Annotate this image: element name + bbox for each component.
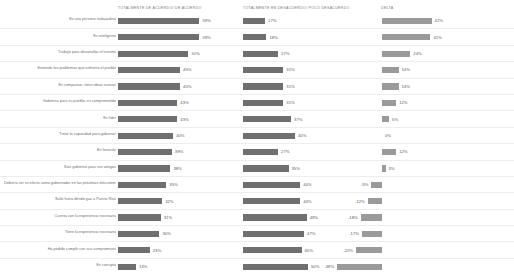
delta-value: 12% bbox=[399, 149, 407, 154]
delta-bar bbox=[382, 67, 399, 73]
delta-bar bbox=[382, 149, 396, 155]
delta-bar bbox=[356, 247, 382, 253]
delta-value: -12% bbox=[354, 199, 365, 204]
disagree-value: 40% bbox=[298, 133, 306, 138]
chart-row: Gobierna para su pueblo, es comprometido… bbox=[0, 95, 514, 111]
delta-value: 24% bbox=[413, 51, 421, 56]
disagree-value: 45% bbox=[305, 248, 313, 253]
agree-cell: 43% bbox=[118, 99, 238, 107]
agree-value: 39% bbox=[175, 149, 183, 154]
agree-value: 43% bbox=[180, 117, 188, 122]
delta-value: 6% bbox=[392, 117, 398, 122]
agree-cell: 35% bbox=[118, 181, 238, 189]
agree-cell: 40% bbox=[118, 132, 238, 140]
disagree-bar bbox=[243, 133, 295, 139]
row-label: Tiene la experiencia necesaria bbox=[4, 230, 116, 235]
delta-bar bbox=[382, 165, 386, 171]
chart-row: Sois gobierno para sus amigos38%35%3% bbox=[0, 161, 514, 177]
delta-value: 14% bbox=[402, 67, 410, 72]
agree-value: 43% bbox=[180, 100, 188, 105]
agree-bar bbox=[118, 149, 172, 155]
disagree-value: 44% bbox=[303, 182, 311, 187]
chart-row: Debería ser re-electo como gobernador en… bbox=[0, 177, 514, 193]
agree-bar bbox=[118, 18, 199, 24]
row-label: Ha podido cumplir con sus compromisos bbox=[4, 247, 116, 252]
disagree-bar bbox=[243, 182, 300, 188]
disagree-bar bbox=[243, 247, 302, 253]
row-label: Entiende los problemas que enfrenta el p… bbox=[4, 66, 116, 71]
agree-cell: 30% bbox=[118, 230, 238, 238]
row-label: Es inteligente bbox=[4, 34, 116, 39]
delta-cell: 3% bbox=[330, 165, 512, 173]
disagree-value: 17% bbox=[268, 18, 276, 23]
delta-bar bbox=[362, 231, 382, 237]
row-label: Cuenta con la experiencia necesaria bbox=[4, 214, 116, 219]
disagree-bar bbox=[243, 116, 291, 122]
disagree-bar bbox=[243, 34, 266, 40]
delta-bar bbox=[361, 214, 382, 220]
delta-value: 42% bbox=[435, 18, 443, 23]
delta-cell: 42% bbox=[330, 17, 512, 25]
disagree-value: 35% bbox=[292, 166, 300, 171]
disagree-bar bbox=[243, 67, 283, 73]
agree-bar bbox=[118, 133, 173, 139]
disagree-value: 27% bbox=[281, 51, 289, 56]
agree-bar bbox=[118, 100, 177, 106]
chart-row: Tiene la capacidad para gobernar40%40%0% bbox=[0, 128, 514, 144]
agree-bar bbox=[118, 34, 199, 40]
row-label: Trabajó para desarrollar el turismo bbox=[4, 50, 116, 55]
disagree-value: 47% bbox=[307, 231, 315, 236]
agree-cell: 45% bbox=[118, 66, 238, 74]
delta-value: -18% bbox=[347, 215, 358, 220]
delta-bar bbox=[382, 18, 432, 24]
delta-value: 41% bbox=[433, 35, 441, 40]
agree-bar bbox=[118, 264, 136, 270]
agree-cell: 59% bbox=[118, 34, 238, 42]
disagree-value: 49% bbox=[310, 215, 318, 220]
delta-value: -17% bbox=[348, 231, 359, 236]
delta-bar bbox=[382, 100, 396, 106]
chart-row: Es una persona trabajadora59%17%42% bbox=[0, 13, 514, 29]
agree-cell: 51% bbox=[118, 50, 238, 58]
delta-cell: 0% bbox=[330, 132, 512, 140]
row-label: Es una persona trabajadora bbox=[4, 17, 116, 22]
delta-cell: -9% bbox=[330, 181, 512, 189]
disagree-value: 31% bbox=[286, 67, 294, 72]
disagree-value: 31% bbox=[286, 100, 294, 105]
row-label: Es honesto bbox=[4, 148, 116, 153]
delta-value: 0% bbox=[385, 133, 391, 138]
disagree-bar bbox=[243, 83, 283, 89]
disagree-bar bbox=[243, 214, 307, 220]
chart-row: Trabajó para desarrollar el turismo51%27… bbox=[0, 46, 514, 62]
agree-cell: 31% bbox=[118, 214, 238, 222]
agree-cell: 59% bbox=[118, 17, 238, 25]
delta-value: -38% bbox=[323, 264, 334, 269]
delta-cell: -17% bbox=[330, 230, 512, 238]
agree-cell: 39% bbox=[118, 148, 238, 156]
disagree-value: 27% bbox=[281, 149, 289, 154]
column-header-delta: DELTA bbox=[381, 6, 393, 10]
agree-value: 59% bbox=[202, 35, 210, 40]
disagree-bar bbox=[243, 198, 300, 204]
chart-row: Es inteligente59%18%41% bbox=[0, 29, 514, 45]
agree-cell: 43% bbox=[118, 116, 238, 124]
delta-bar bbox=[337, 264, 382, 270]
row-label: Sois gobierno para sus amigos bbox=[4, 165, 116, 170]
column-header-disagree: TOTALMENTE EN DESACUERDO/ POCO DESACUERD… bbox=[243, 6, 350, 10]
agree-value: 45% bbox=[183, 67, 191, 72]
agree-bar bbox=[118, 231, 159, 237]
agree-bar bbox=[118, 182, 166, 188]
agree-value: 23% bbox=[153, 248, 161, 253]
agree-bar bbox=[118, 198, 162, 204]
row-label: Es compasivo, tiene ideas nuevas bbox=[4, 83, 116, 88]
agree-value: 32% bbox=[165, 199, 173, 204]
agree-bar bbox=[118, 247, 150, 253]
delta-bar bbox=[382, 116, 389, 122]
disagree-bar bbox=[243, 18, 265, 24]
delta-value: -9% bbox=[357, 182, 368, 187]
disagree-bar bbox=[243, 165, 289, 171]
delta-cell: 14% bbox=[330, 83, 512, 91]
delta-cell: -12% bbox=[330, 198, 512, 206]
row-label: Es líder bbox=[4, 116, 116, 121]
chart-row: Entiende los problemas que enfrenta el p… bbox=[0, 62, 514, 78]
